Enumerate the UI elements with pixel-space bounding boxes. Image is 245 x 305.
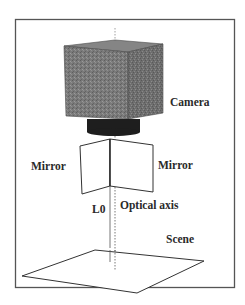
- label-optical-axis: Optical axis: [120, 199, 179, 212]
- camera-lens: [87, 119, 140, 136]
- label-l0: L0: [92, 203, 106, 215]
- optical-setup-diagram: Camera Mirror Mirror L0 Optical axis Sce…: [0, 0, 245, 305]
- scene-plane: [22, 250, 204, 293]
- camera-front-face: [64, 46, 128, 119]
- label-scene: Scene: [166, 233, 194, 245]
- left-mirror: [80, 139, 110, 194]
- label-camera: Camera: [170, 96, 210, 108]
- label-mirror-right: Mirror: [158, 159, 193, 171]
- label-mirror-left: Mirror: [31, 160, 66, 172]
- camera-right-face: [128, 44, 163, 119]
- right-mirror: [110, 139, 153, 192]
- camera: [64, 40, 163, 119]
